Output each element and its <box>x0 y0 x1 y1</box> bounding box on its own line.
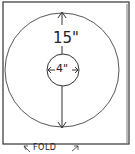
inner-diameter-label: 4" <box>56 62 68 75</box>
fold-label: FOLD <box>33 143 57 152</box>
pattern-diagram <box>0 0 135 154</box>
fold-arrow-right-icon <box>72 146 78 151</box>
outer-diameter-label: 15" <box>53 29 79 47</box>
fold-arrow-left-icon <box>24 146 30 152</box>
